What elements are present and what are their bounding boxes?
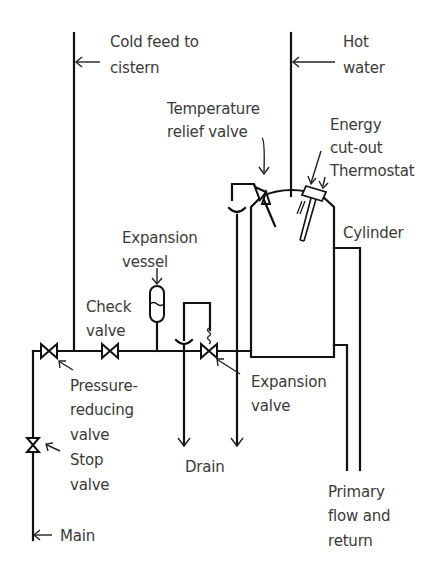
svg-text:Stop: Stop: [70, 451, 103, 469]
leader-temperature-relief: [259, 138, 269, 174]
svg-text:vessel: vessel: [122, 253, 168, 271]
svg-text:Energy: Energy: [330, 116, 382, 134]
svg-text:valve: valve: [70, 426, 109, 444]
svg-text:relief valve: relief valve: [167, 123, 248, 141]
svg-text:cistern: cistern: [110, 59, 159, 77]
pressure-reducing-valve-icon: [41, 344, 57, 358]
svg-text:Check: Check: [86, 298, 132, 316]
expansion-discharge-loop: [184, 303, 210, 340]
label-temperature-relief-valve: Temperature relief valve: [166, 100, 260, 141]
label-expansion-vessel: Expansion vessel: [122, 229, 197, 271]
cylinder-body: [251, 190, 334, 357]
svg-text:valve: valve: [70, 476, 109, 494]
label-expansion-valve: Expansion valve: [251, 373, 326, 415]
label-pressure-reducing-valve: Pressure- reducing valve: [70, 377, 138, 444]
svg-text:return: return: [328, 532, 373, 550]
tundish-right-icon: [229, 208, 245, 212]
label-cylinder: Cylinder: [343, 224, 405, 242]
svg-text:cut-out: cut-out: [330, 139, 383, 157]
label-energy-cutout-thermostat: Energy cut-out Thermostat: [329, 116, 415, 180]
svg-text:water: water: [343, 59, 386, 77]
label-cold-feed: Cold feed to cistern: [110, 33, 199, 77]
svg-text:Cold feed to: Cold feed to: [110, 33, 199, 51]
leader-stop-valve: [46, 443, 60, 451]
leader-energy-cutout: [308, 151, 328, 188]
stop-valve-icon: [27, 438, 39, 452]
svg-text:Main: Main: [60, 527, 95, 545]
leader-pressure-reducing: [59, 361, 73, 370]
leader-hot-water: [293, 57, 335, 67]
expansion-valve-icon: [201, 328, 217, 358]
svg-text:valve: valve: [86, 322, 125, 340]
leader-main: [34, 530, 52, 540]
svg-text:Thermostat: Thermostat: [329, 162, 415, 180]
label-main: Main: [60, 527, 95, 545]
svg-text:Cylinder: Cylinder: [343, 224, 405, 242]
check-valve-icon: [102, 344, 118, 358]
label-drain: Drain: [185, 458, 225, 476]
label-primary-flow-return: Primary flow and return: [328, 483, 390, 550]
primary-return-pipe: [334, 345, 347, 470]
label-check-valve: Check valve: [86, 298, 132, 340]
svg-text:Pressure-: Pressure-: [70, 377, 138, 395]
leader-cold-feed: [76, 57, 100, 67]
expansion-vessel-icon: [150, 286, 164, 322]
svg-text:Primary: Primary: [328, 483, 385, 501]
svg-text:Hot: Hot: [343, 33, 369, 51]
svg-text:Expansion: Expansion: [122, 229, 197, 247]
svg-text:Drain: Drain: [185, 458, 225, 476]
water-system-diagram: Cold feed to cistern Hot water Temperatu…: [0, 0, 447, 572]
svg-text:Temperature: Temperature: [166, 100, 260, 118]
svg-text:reducing: reducing: [70, 401, 134, 419]
label-hot-water: Hot water: [343, 33, 386, 77]
thermostat-icon: [297, 186, 326, 241]
svg-text:valve: valve: [251, 397, 290, 415]
svg-text:Expansion: Expansion: [251, 373, 326, 391]
label-stop-valve: Stop valve: [70, 451, 109, 494]
svg-text:flow and: flow and: [328, 507, 390, 525]
